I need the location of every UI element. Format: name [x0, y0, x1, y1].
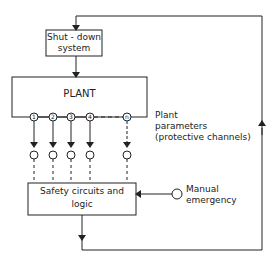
plant-parameters-3: (protective channels) — [155, 132, 251, 143]
shutdown-label-2: system — [46, 43, 102, 54]
manual-label-2: emergency — [186, 195, 237, 206]
channel-1: 1 — [29, 112, 39, 122]
plant-parameters-2: parameters — [155, 121, 207, 132]
plant-parameters-1: Plant — [155, 110, 178, 121]
channel-4: 4 — [85, 112, 95, 122]
shutdown-label-1: Shut - down — [46, 32, 102, 43]
safety-label-2: logic — [28, 199, 136, 210]
safety-label-1: Safety circuits and — [28, 186, 136, 197]
plant-label: PLANT — [12, 88, 147, 99]
channel-n: n — [122, 112, 132, 122]
manual-label-1: Manual — [186, 184, 219, 195]
channel-2: 2 — [48, 112, 58, 122]
channel-3: 3 — [66, 112, 76, 122]
